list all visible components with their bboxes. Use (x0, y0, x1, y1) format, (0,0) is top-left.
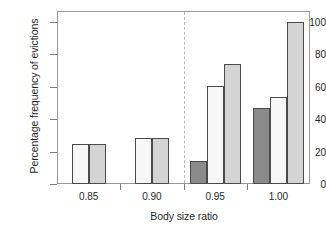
bar-0-95-dark-gray (190, 161, 207, 184)
bar-1-00-near-white (270, 97, 287, 184)
bar-0-85-near-white (72, 144, 89, 185)
y-tick-mark (50, 22, 57, 23)
x-tick-label: 0.85 (59, 191, 119, 202)
bar-0-90-light-gray (152, 138, 169, 184)
bar-0-90-near-white (135, 138, 152, 184)
x-tick-mark (120, 184, 121, 190)
x-tick-label: 0.90 (122, 191, 182, 202)
y-tick-mark (50, 184, 57, 185)
chart-figure: Percentage frequency of evictions 020406… (0, 0, 326, 232)
y-tick-mark (50, 152, 57, 153)
bar-0-95-near-white (207, 86, 224, 184)
vertical-dashed-separator (184, 12, 185, 183)
y-axis-title: Percentage frequency of evictions (28, 0, 40, 196)
x-tick-label: 0.95 (185, 191, 245, 202)
bar-0-95-light-gray (224, 64, 241, 184)
bar-1-00-dark-gray (253, 108, 270, 184)
x-tick-mark (247, 184, 248, 190)
y-tick-mark (50, 119, 57, 120)
x-tick-label: 1.00 (248, 191, 308, 202)
y-tick-mark (50, 54, 57, 55)
bar-0-85-light-gray (89, 144, 106, 185)
bar-1-00-light-gray (287, 22, 304, 184)
x-tick-mark (184, 184, 185, 190)
x-axis-title: Body size ratio (57, 210, 311, 222)
y-tick-mark (50, 87, 57, 88)
